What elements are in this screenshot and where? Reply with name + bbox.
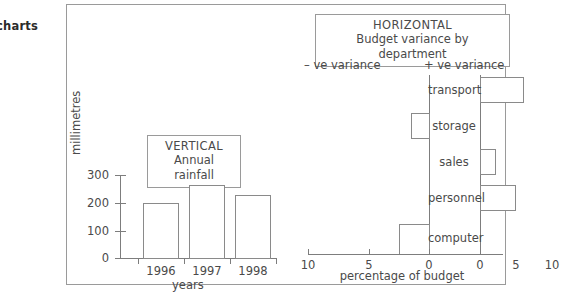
h-tick-mark-pos0 — [480, 249, 481, 255]
y-tick-mark-100 — [115, 231, 126, 232]
h-tick-label-pos5: 5 — [504, 258, 528, 272]
x-tick-label-1996: 1996 — [143, 264, 179, 278]
figure-caption: .9 r charts — [0, 6, 56, 33]
bar-transport — [480, 77, 524, 103]
h-tick-mark-neg5 — [369, 249, 370, 255]
bar-computer — [399, 224, 430, 255]
y-tick-mark-300 — [115, 175, 126, 176]
vertical-chart-y-axis — [120, 175, 121, 259]
h-tick-mark-neg10 — [308, 249, 309, 255]
vertical-chart-title-box: VERTICAL Annual rainfall — [147, 135, 241, 188]
category-label-transport: transport — [428, 83, 480, 97]
vertical-chart-x-axis-label: years — [172, 278, 204, 292]
horizontal-chart-x-axis — [308, 254, 503, 255]
category-label-storage: storage — [428, 119, 480, 133]
horizontal-bar-chart: HORIZONTAL Budget variance by department… — [297, 5, 507, 286]
x-tick-label-1998: 1998 — [235, 264, 271, 278]
vertical-chart-y-axis-label: millimetres — [69, 91, 83, 155]
bar-personnel — [480, 185, 516, 211]
x-tick-mark-1 — [184, 258, 185, 264]
category-label-sales: sales — [428, 155, 480, 169]
vertical-bar-chart: VERTICAL Annual rainfall millimetres 300… — [67, 5, 297, 286]
figure-number: .9 — [0, 6, 56, 19]
h-tick-label-pos10: 10 — [540, 258, 564, 272]
horizontal-chart-x-axis-label: percentage of budget — [297, 269, 507, 283]
h-tick-mark-neg0 — [429, 249, 430, 255]
horizontal-chart-title-line1: HORIZONTAL — [324, 18, 501, 32]
x-tick-mark-2 — [230, 258, 231, 264]
negative-variance-label: – ve variance — [304, 58, 380, 72]
x-tick-label-1997: 1997 — [189, 264, 225, 278]
y-tick-label-200: 200 — [79, 196, 109, 210]
positive-variance-label: + ve variance — [424, 58, 504, 72]
bar-1997 — [189, 185, 225, 259]
figure-frame: VERTICAL Annual rainfall millimetres 300… — [66, 4, 506, 285]
y-tick-label-100: 100 — [79, 224, 109, 238]
bar-1998 — [235, 195, 271, 259]
y-tick-label-0: 0 — [79, 251, 109, 265]
figure-title: r charts — [0, 19, 56, 33]
category-label-computer: computer — [428, 231, 480, 245]
x-tick-mark-0 — [138, 258, 139, 264]
vertical-chart-title-line2: Annual rainfall — [156, 153, 232, 183]
vertical-chart-title-line1: VERTICAL — [156, 139, 232, 153]
bar-1996 — [143, 203, 179, 259]
bar-sales — [480, 149, 496, 175]
category-label-personnel: personnel — [428, 191, 480, 205]
y-tick-label-300: 300 — [79, 168, 109, 182]
x-tick-mark-3 — [276, 258, 277, 264]
y-tick-mark-200 — [115, 203, 126, 204]
